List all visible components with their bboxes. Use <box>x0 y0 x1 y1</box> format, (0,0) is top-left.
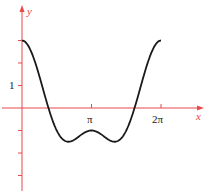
x-axis-label: x <box>195 110 201 122</box>
y-axis-arrow-icon <box>20 5 25 12</box>
function-curve <box>22 41 161 142</box>
x-tick-label-2pi: 2π <box>152 113 164 125</box>
y-axis-label: y <box>26 5 32 17</box>
x-tick-label-pi: π <box>87 113 93 125</box>
axes <box>2 10 199 191</box>
y-tick-label-1: 1 <box>9 79 15 91</box>
plot-area: y x π 2π 1 <box>0 0 206 194</box>
